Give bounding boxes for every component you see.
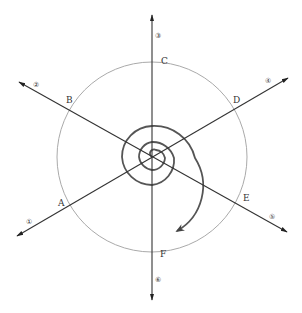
point-label-a: A	[57, 198, 65, 208]
axis-label-4: ④	[265, 77, 271, 85]
point-label-d: D	[233, 95, 240, 105]
axis-label-5: ⑤	[269, 213, 275, 221]
spiral-diagram: ① ② ③ ④ ⑤ ⑥ A B C D E F	[0, 0, 302, 313]
point-label-b: B	[66, 95, 73, 105]
axis-label-1: ①	[26, 218, 32, 226]
point-label-c: C	[161, 56, 168, 66]
axis-label-2: ②	[33, 81, 39, 89]
point-label-e: E	[243, 193, 250, 203]
axis-label-3: ③	[155, 32, 161, 40]
axis-label-6: ⑥	[155, 276, 161, 284]
point-label-f: F	[160, 249, 166, 259]
